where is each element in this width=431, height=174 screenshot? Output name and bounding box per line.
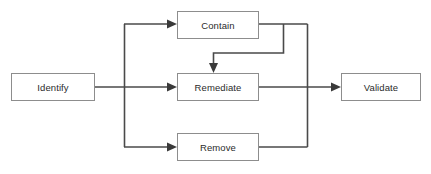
node-remove[interactable]: Remove xyxy=(178,134,259,161)
node-validate[interactable]: Validate xyxy=(342,74,421,101)
node-contain-label: Contain xyxy=(201,20,234,31)
arrowhead-to-remove xyxy=(167,143,177,152)
flowchart-diagram: Identify Contain Remediate Remove Valida… xyxy=(0,0,431,174)
arrowhead-contain-feedback-to-remediate xyxy=(209,63,218,73)
node-identify-label: Identify xyxy=(37,82,69,93)
node-validate-label: Validate xyxy=(364,82,398,93)
node-contain[interactable]: Contain xyxy=(178,12,259,39)
node-remediate-label: Remediate xyxy=(195,82,242,93)
node-remediate[interactable]: Remediate xyxy=(178,74,259,101)
arrowhead-to-contain xyxy=(167,20,177,29)
arrowhead-to-validate xyxy=(331,83,341,92)
flowchart-canvas: Identify Contain Remediate Remove Valida… xyxy=(0,0,431,174)
node-layer: Identify Contain Remediate Remove Valida… xyxy=(12,12,421,161)
node-remove-label: Remove xyxy=(200,142,236,153)
node-identify[interactable]: Identify xyxy=(12,74,95,101)
arrowhead-to-remediate xyxy=(167,83,177,92)
